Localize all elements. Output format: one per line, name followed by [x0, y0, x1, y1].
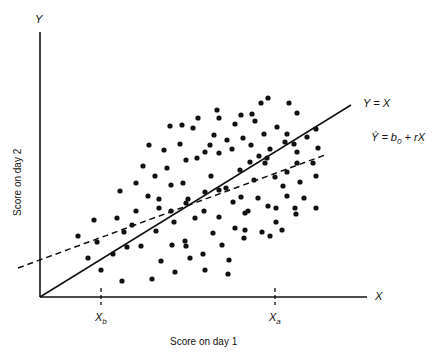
data-point [272, 174, 277, 179]
data-point [294, 110, 299, 115]
data-point [284, 169, 289, 174]
data-point [207, 142, 212, 147]
data-point [219, 242, 224, 247]
data-point [210, 230, 215, 235]
data-point [190, 125, 195, 130]
data-point [168, 182, 173, 187]
data-point [273, 219, 278, 224]
data-point [232, 225, 237, 230]
data-point [315, 145, 320, 150]
data-point [240, 135, 245, 140]
data-point [180, 180, 185, 185]
data-point [226, 257, 231, 262]
data-point [110, 251, 115, 256]
data-point [251, 177, 256, 182]
data-point [265, 203, 270, 208]
data-point [183, 243, 188, 248]
data-point [261, 131, 266, 136]
data-point [98, 267, 103, 272]
data-point [223, 185, 228, 190]
data-point [200, 251, 205, 256]
data-point [140, 163, 145, 168]
data-point [216, 150, 221, 155]
identity-line [40, 105, 351, 297]
data-point [119, 278, 124, 283]
data-point [267, 233, 272, 238]
data-point [291, 141, 296, 146]
data-point [177, 141, 182, 146]
data-point [237, 167, 242, 172]
data-point [294, 160, 299, 165]
data-point [161, 147, 166, 152]
data-point [124, 244, 129, 249]
identity-line-label: Y = X [363, 97, 390, 109]
data-point [168, 208, 173, 213]
data-point [242, 227, 247, 232]
data-point [224, 137, 229, 142]
data-point [267, 146, 272, 151]
tick-label-xa: Xa [269, 311, 281, 326]
data-point [216, 115, 221, 120]
data-point [225, 271, 230, 276]
data-point [133, 208, 138, 213]
data-point [117, 188, 122, 193]
data-point [91, 217, 96, 222]
data-point [313, 205, 318, 210]
data-point [185, 196, 190, 201]
data-point [145, 193, 150, 198]
tick-label-xb: Xb [95, 311, 107, 326]
data-point [280, 183, 285, 188]
data-point [164, 165, 169, 170]
data-point [292, 205, 297, 210]
data-point [167, 123, 172, 128]
data-point [156, 196, 161, 201]
data-point [121, 229, 126, 234]
data-point [202, 189, 207, 194]
data-point [264, 155, 269, 160]
data-point [216, 214, 221, 219]
data-point [156, 205, 161, 210]
data-point [133, 180, 138, 185]
data-point [216, 187, 221, 192]
data-point [248, 142, 253, 147]
data-point [247, 159, 252, 164]
data-point [242, 210, 247, 215]
data-point [172, 269, 177, 274]
data-points [75, 95, 320, 283]
data-point [183, 157, 188, 162]
regression-line-label: Ŷ = b0 + rX [371, 131, 425, 146]
data-point [279, 227, 284, 232]
data-point [114, 215, 119, 220]
data-point [310, 160, 315, 165]
data-point [194, 155, 199, 160]
data-point [201, 208, 206, 213]
data-point [252, 118, 257, 123]
data-point [282, 139, 287, 144]
data-point [202, 149, 207, 154]
data-point [274, 124, 279, 129]
data-point [265, 95, 270, 100]
data-point [258, 100, 263, 105]
data-point [146, 142, 151, 147]
data-point [249, 111, 254, 116]
data-point [230, 199, 235, 204]
data-point [241, 235, 246, 240]
data-point [149, 276, 154, 281]
data-point [94, 239, 99, 244]
data-point [284, 131, 289, 136]
data-point [202, 267, 207, 272]
y-axis-title: Score on day 2 [12, 149, 23, 216]
x-axis-symbol: X [375, 290, 382, 302]
data-point [286, 100, 291, 105]
data-point [171, 219, 176, 224]
data-point [85, 255, 90, 260]
data-point [313, 173, 318, 178]
x-axis-title: Score on day 1 [170, 336, 237, 347]
data-point [313, 126, 318, 131]
data-point [232, 121, 237, 126]
data-point [273, 205, 278, 210]
scatter-plot [0, 0, 434, 356]
data-point [297, 179, 302, 184]
data-point [153, 228, 158, 233]
data-point [262, 160, 267, 165]
